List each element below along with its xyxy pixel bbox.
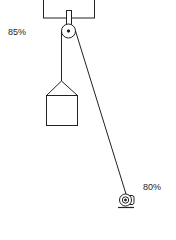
load-box <box>47 96 78 126</box>
motor-efficiency-label: 80% <box>143 182 161 192</box>
motor <box>118 194 134 208</box>
load-sling <box>47 81 78 96</box>
pulley-efficiency-label: 85% <box>8 27 26 37</box>
rope-to-motor <box>76 31 127 194</box>
pulley-axle <box>67 30 69 32</box>
